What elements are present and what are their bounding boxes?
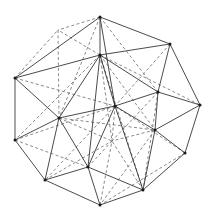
vertex-center-hub [114,105,117,108]
vertex-right-upper-mid [157,91,160,94]
vertex-upper-hub [99,54,102,57]
visible-edge-v10-v11 [155,130,185,153]
visible-edge-v7-v8 [59,106,115,118]
vertex-top-right [169,43,172,46]
hidden-edge-v1-v16 [100,55,112,141]
visible-edge-v2-v5 [158,44,170,92]
visible-edge-v13-v15 [45,180,100,205]
visible-edge-v1-v2 [100,44,170,55]
visible-edge-v7-v14 [115,106,143,190]
hidden-edge-v3-v4 [15,30,58,78]
figure-canvas [0,0,215,223]
visible-edge-v1-v5 [100,55,158,92]
vertex-right-lower [184,152,187,155]
vertex-inner-lower [87,166,90,169]
vertex-bottom-right-hub [142,189,145,192]
vertex-bottom [99,204,102,207]
hidden-edge-v5-v14 [143,92,158,190]
hidden-edge-v1-v9 [15,55,100,140]
hidden-edge-v7-v13 [45,106,115,180]
hidden-edge-v11-v15 [100,153,185,205]
vertex-bottom-left [44,179,47,182]
hidden-edge-v13-v16 [45,141,112,180]
vertex-left-lower [14,139,17,142]
hidden-edge-v1-v6 [100,55,200,105]
visible-edge-v8-v12 [59,118,88,167]
hidden-edge-v0-v4 [58,17,100,30]
visible-edge-v7-v12 [88,106,115,167]
vertex-top [99,16,102,19]
hidden-edge-v12-v16 [88,141,112,167]
visible-edge-v7-v10 [115,106,155,130]
visible-edge-v12-v14 [88,167,143,190]
visible-edge-v8-v9 [15,118,59,140]
visible-edge-v12-v15 [88,167,100,205]
visible-edge-v5-v7 [115,92,158,106]
hidden-edge-v4-v8 [58,30,59,118]
vertex-left-upper [14,77,17,80]
visible-edge-v9-v13 [15,140,45,180]
hidden-edge-v9-v12 [15,140,88,167]
vertex-left-mid [58,117,61,120]
polyhedron-wireframe-svg [0,0,215,223]
vertex-far-right [199,104,202,107]
visible-edge-v14-v15 [100,190,143,205]
hidden-edge-v7-v9 [15,106,115,140]
hidden-edge-v8-v16 [59,118,112,141]
visible-edge-v5-v6 [158,92,200,105]
vertex-right-lower-mid [154,129,157,132]
visible-edge-v2-v6 [170,44,200,105]
